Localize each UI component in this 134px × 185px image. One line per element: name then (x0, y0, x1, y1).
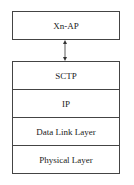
layer-label: SCTP (55, 71, 77, 81)
protocol-stack: SCTP IP Data Link Layer Physical Layer (12, 61, 120, 174)
layer-data-link: Data Link Layer (13, 118, 119, 146)
layer-label: IP (62, 99, 70, 109)
layer-sctp: SCTP (13, 62, 119, 90)
xn-ap-label: Xn-AP (53, 21, 79, 31)
layer-ip: IP (13, 90, 119, 118)
xn-ap-box: Xn-AP (12, 11, 120, 40)
layer-label: Physical Layer (39, 155, 93, 165)
bidirectional-arrow-icon (60, 40, 70, 61)
layer-label: Data Link Layer (36, 127, 95, 137)
layer-physical: Physical Layer (13, 146, 119, 173)
